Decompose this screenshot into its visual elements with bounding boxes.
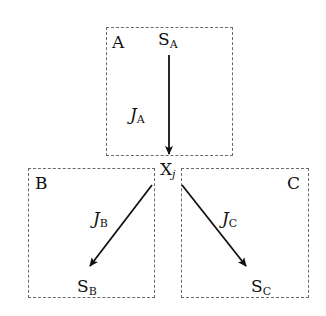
node-sc: SC xyxy=(251,278,271,297)
box-label-a: A xyxy=(112,34,124,51)
node-sb-sub: B xyxy=(89,285,97,298)
edge-label-ja-sub: A xyxy=(137,113,145,126)
edge-label-jb: JB xyxy=(93,210,108,229)
edge-label-jc-main: J xyxy=(222,208,229,228)
node-sa-sub: A xyxy=(170,38,178,51)
box-label-b: B xyxy=(35,175,48,192)
edge-label-jb-main: J xyxy=(93,208,100,228)
node-xj-main: X xyxy=(160,159,172,179)
node-xj-sub: j xyxy=(172,168,175,181)
edge-label-jc-sub: C xyxy=(229,217,237,230)
node-sb: SB xyxy=(77,278,97,297)
node-sc-main: S xyxy=(251,276,263,296)
node-sb-main: S xyxy=(77,276,89,296)
node-sc-sub: C xyxy=(263,285,271,298)
edge-label-jb-sub: B xyxy=(100,217,108,230)
edge-label-jc: JC xyxy=(222,210,237,229)
node-xj: Xj xyxy=(160,161,176,180)
node-sa: SA xyxy=(158,31,178,50)
node-sa-main: S xyxy=(158,29,170,49)
edge-label-ja-main: J xyxy=(130,104,137,124)
box-label-c: C xyxy=(287,175,300,192)
edge-label-ja: JA xyxy=(130,106,145,125)
